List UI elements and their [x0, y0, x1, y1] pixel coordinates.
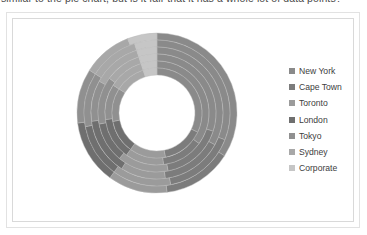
legend-item-label: London: [299, 115, 328, 125]
legend-item[interactable]: Corporate: [289, 160, 367, 176]
doughnut-chart[interactable]: [75, 31, 239, 195]
legend-item-label: Tokyo: [299, 131, 321, 141]
legend-item-label: Toronto: [299, 98, 328, 108]
caption-text: similar to the pie chart, but is it fair…: [0, 0, 367, 4]
legend-item[interactable]: New York: [289, 63, 367, 79]
caption-strip: similar to the pie chart, but is it fair…: [0, 0, 367, 6]
legend-item[interactable]: Cape Town: [289, 79, 367, 95]
legend-item[interactable]: Sydney: [289, 144, 367, 160]
legend-swatch-icon: [289, 100, 295, 106]
chart-object[interactable]: New YorkCape TownTorontoLondonTokyoSydne…: [6, 12, 360, 228]
legend-item-label: New York: [299, 66, 335, 76]
legend-item-label: Sydney: [299, 147, 328, 157]
legend-item-label: Cape Town: [299, 82, 342, 92]
doughnut-rings: [77, 33, 237, 193]
legend-swatch-icon: [289, 117, 295, 123]
legend-swatch-icon: [289, 133, 295, 139]
legend-swatch-icon: [289, 149, 295, 155]
legend-item-label: Corporate: [299, 163, 337, 173]
legend-swatch-icon: [289, 68, 295, 74]
chart-legend: New YorkCape TownTorontoLondonTokyoSydne…: [289, 63, 367, 176]
chart-plot-area: New YorkCape TownTorontoLondonTokyoSydne…: [12, 18, 354, 222]
legend-swatch-icon: [289, 165, 295, 171]
legend-item[interactable]: Toronto: [289, 95, 367, 111]
legend-swatch-icon: [289, 84, 295, 90]
doughnut-svg: [75, 31, 239, 195]
legend-item[interactable]: London: [289, 112, 367, 128]
legend-item[interactable]: Tokyo: [289, 128, 367, 144]
